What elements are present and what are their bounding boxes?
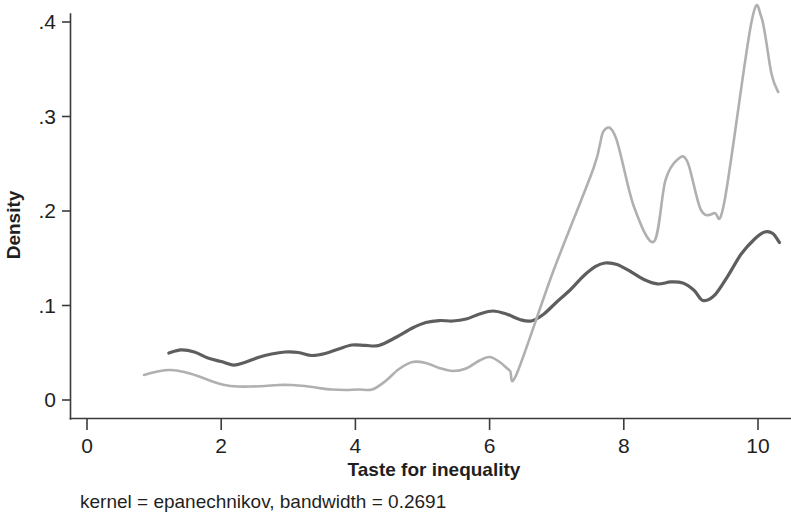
x-tick-label: 10: [746, 434, 769, 457]
y-tick-label: .1: [38, 294, 56, 317]
y-tick-label: .2: [38, 199, 56, 222]
x-tick-label: 4: [350, 434, 362, 457]
x-tick-label: 8: [618, 434, 630, 457]
y-tick-label: 0: [44, 388, 56, 411]
y-axis-title: Density: [3, 190, 24, 259]
series-group: [144, 5, 779, 390]
axes-group: [71, 14, 791, 419]
y-axis-ticks: 0.1.2.3.4: [38, 10, 71, 411]
density-plot-figure: 0.1.2.3.4 0246810 Density Taste for ineq…: [0, 0, 791, 517]
x-tick-label: 0: [81, 434, 93, 457]
series-light-series: [144, 5, 778, 390]
series-dark-series: [169, 232, 780, 365]
y-tick-label: .4: [38, 10, 56, 33]
y-tick-label: .3: [38, 105, 56, 128]
x-axis-ticks: 0246810: [81, 419, 770, 457]
x-tick-label: 6: [484, 434, 496, 457]
chart-canvas: 0.1.2.3.4 0246810 Density Taste for ineq…: [0, 0, 791, 517]
x-axis-title: Taste for inequality: [348, 459, 521, 480]
x-tick-label: 2: [215, 434, 227, 457]
kernel-bandwidth-note: kernel = epanechnikov, bandwidth = 0.269…: [80, 491, 446, 512]
